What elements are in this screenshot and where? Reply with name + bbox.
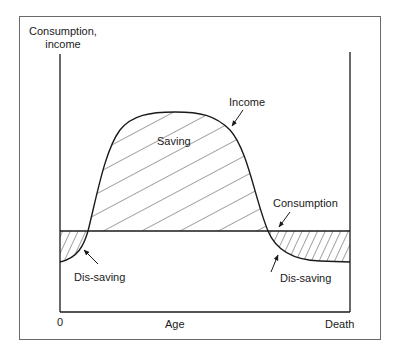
y-axis-label-line1: Consumption, bbox=[29, 25, 97, 38]
early-dissaving-label: Dis-saving bbox=[74, 271, 125, 284]
early-dissaving-region bbox=[60, 231, 88, 262]
x-axis-label: Age bbox=[165, 318, 185, 331]
income-arrow bbox=[232, 110, 243, 126]
saving-region bbox=[88, 112, 268, 231]
saving-label: Saving bbox=[157, 135, 191, 148]
consumption-label: Consumption bbox=[273, 197, 338, 210]
early-dissaving-arrow bbox=[84, 250, 98, 264]
consumption-arrow bbox=[279, 212, 290, 227]
late-dissaving-arrow bbox=[271, 255, 278, 272]
y-axis-label-line2: income bbox=[29, 38, 97, 51]
x-axis-origin-label: 0 bbox=[57, 316, 63, 329]
income-label: Income bbox=[229, 96, 265, 109]
x-axis-end-label: Death bbox=[325, 318, 354, 331]
y-axis-label: Consumption, income bbox=[29, 25, 97, 51]
late-dissaving-region bbox=[268, 231, 350, 262]
life-cycle-diagram bbox=[0, 0, 401, 362]
late-dissaving-label: Dis-saving bbox=[280, 272, 331, 285]
